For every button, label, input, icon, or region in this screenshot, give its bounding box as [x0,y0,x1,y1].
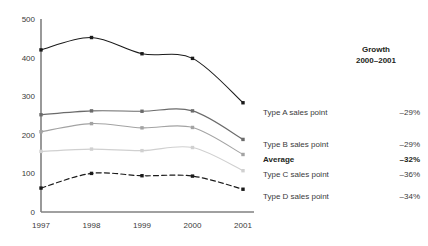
data-point-marker [241,138,244,141]
data-point-marker [191,174,194,177]
series-2 [39,109,253,146]
y-axis-tick-label: 0 [31,208,36,217]
x-axis-tick-label: 2001 [234,221,252,230]
data-point-marker [191,109,194,112]
legend-label: Average [263,155,294,164]
legend-label: Type C sales point [263,170,329,179]
legend-growth-value: –36% [360,170,420,179]
data-point-marker [90,122,93,125]
data-point-marker [241,188,244,191]
legend-growth-value: –34% [360,192,420,201]
legend-growth-value: –29% [360,140,420,149]
data-point-marker [39,130,42,133]
legend-label: Type D sales point [263,192,329,201]
data-point-marker [140,149,143,152]
series-3 [39,122,253,161]
data-point-marker [140,126,143,129]
y-axis-tick-label: 400 [22,54,36,63]
legend-row-type-a: Type A sales point –29% [258,108,428,119]
data-point-marker [90,36,93,39]
data-point-marker [191,57,194,60]
x-axis-tick-label: 1997 [32,221,50,230]
x-axis-tick-label: 1998 [83,221,101,230]
data-point-marker [241,169,244,172]
legend-row-type-c: Type C sales point –36% [258,170,428,181]
x-axis-tick-label: 2000 [184,221,202,230]
data-point-marker [39,186,42,189]
series-4 [39,146,253,176]
series-5 [39,172,253,198]
data-point-marker [39,150,42,153]
data-point-marker [191,126,194,129]
legend-header-line1: Growth [328,45,424,56]
data-point-marker [241,101,244,104]
data-point-marker [140,52,143,55]
chart-legend: Growth 2000–2001 Type A sales point –29%… [258,0,428,246]
data-point-marker [90,109,93,112]
legend-row-type-d: Type D sales point –34% [258,192,428,203]
legend-growth-value: –32% [360,155,420,164]
legend-header-line2: 2000–2001 [328,56,424,67]
data-point-marker [90,172,93,175]
data-point-marker [39,113,42,116]
data-point-marker [140,174,143,177]
data-point-marker [39,48,42,51]
legend-row-type-b: Type B sales point –29% [258,140,428,151]
series-line [41,38,243,103]
data-point-marker [191,146,194,149]
series-1 [39,36,253,114]
y-axis-tick-label: 500 [22,15,36,24]
y-axis-tick-label: 200 [22,131,36,140]
x-axis-tick-label: 1999 [133,221,151,230]
legend-header: Growth 2000–2001 [328,45,424,66]
legend-growth-value: –29% [360,108,420,117]
legend-label: Type B sales point [263,140,328,149]
series-line [41,109,243,140]
chart-figure: 500400300200100019971998199920002001 Gro… [0,0,428,246]
legend-label: Type A sales point [263,108,328,117]
data-point-marker [241,153,244,156]
y-axis-tick-label: 300 [22,92,36,101]
data-point-marker [90,147,93,150]
legend-row-average: Average –32% [258,155,428,166]
data-point-marker [140,110,143,113]
y-axis-tick-label: 100 [22,169,36,178]
